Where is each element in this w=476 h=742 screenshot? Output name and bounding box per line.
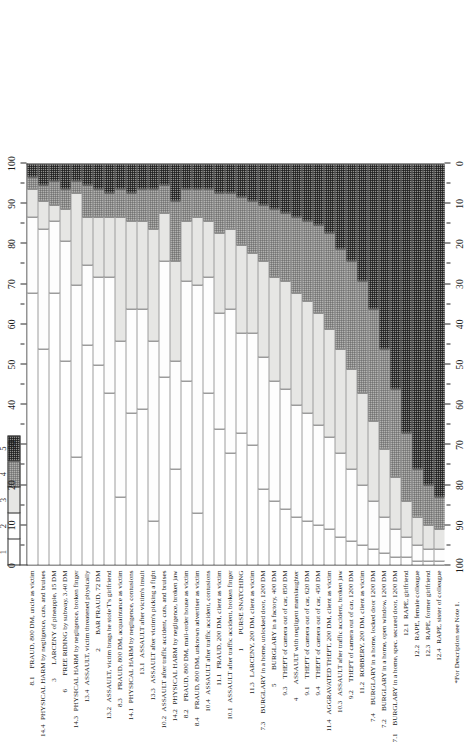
- bar-segment-3: [192, 216, 202, 284]
- table-row: [115, 164, 126, 564]
- bar-segment-2: [181, 280, 191, 380]
- axis-tick-label: 90: [454, 520, 464, 530]
- category-label: 13.1ASSAULT after victim's insult: [136, 567, 147, 683]
- bar-segment-4: [335, 248, 345, 348]
- category-text: BURGLARY in a home, unlocked door, 1200 …: [259, 570, 266, 713]
- category-label: 12.3RAPE, former girlfriend: [422, 567, 433, 683]
- axis-tick: [20, 564, 26, 565]
- category-label-list: 8.1FRAUD, 800 DM, uncle as victim14.4PHY…: [26, 567, 444, 683]
- bar-segment-5: [115, 164, 125, 188]
- category-code: 7.3: [259, 713, 266, 730]
- table-row: [258, 164, 269, 564]
- bar-segment-5: [247, 164, 257, 200]
- axis-tick-label: 10: [454, 198, 464, 208]
- axis-tick: [20, 303, 24, 304]
- bar-segment-5: [346, 164, 356, 260]
- axis-tick: [20, 202, 26, 203]
- bar-segment-5: [423, 164, 433, 484]
- legend-swatch-1: 1: [7, 539, 20, 565]
- bar-segment-4: [71, 180, 81, 192]
- table-row: [291, 164, 302, 564]
- bar-segment-4: [192, 188, 202, 216]
- category-text: RAPE, female colleague: [413, 570, 420, 640]
- bar-segment-5: [379, 164, 389, 348]
- bar-segment-5: [269, 164, 279, 208]
- bar-segment-1: [214, 428, 224, 564]
- category-label: 9.1THEFT of camera out of car, 620 DM: [301, 567, 312, 683]
- bar-segment-1: [148, 520, 158, 564]
- bar-segment-1: [379, 552, 389, 564]
- table-row: [126, 164, 137, 564]
- axis-tick: [20, 363, 26, 364]
- axis-tick: [446, 182, 450, 183]
- table-row: [302, 164, 313, 564]
- bar-segment-5: [225, 164, 235, 192]
- axis-tick: [444, 242, 450, 243]
- category-text: PHYSICAL HARM by negligence, contusions: [127, 570, 134, 703]
- axis-tick: [20, 283, 26, 284]
- axis-tick-label: 90: [6, 198, 16, 208]
- axis-tick: [444, 363, 450, 364]
- category-code: 10.3: [336, 696, 343, 713]
- bar-segment-5: [434, 164, 444, 496]
- table-row: [181, 164, 192, 564]
- category-label: 14.1PHYSICAL HARM by negligence, contusi…: [125, 567, 136, 683]
- bar-segment-4: [269, 208, 279, 276]
- bar-segment-3: [126, 220, 136, 308]
- bar-segment-3: [379, 448, 389, 516]
- bar-segment-5: [291, 164, 301, 216]
- axis-tick-label: 40: [454, 319, 464, 329]
- table-row: [203, 164, 214, 564]
- table-row: [148, 164, 159, 564]
- category-label: 13.2ASSAULT, victim brags he stole T's g…: [103, 567, 114, 683]
- axis-tick-label: 70: [6, 279, 16, 289]
- bar-segment-2: [82, 264, 92, 344]
- category-code: 13.2: [105, 702, 112, 719]
- category-label: 13.3ASSAULT after victim's picking a fig…: [147, 567, 158, 683]
- bar-segment-1: [93, 364, 103, 564]
- category-code: 9.2: [347, 681, 354, 698]
- bar-segment-2: [335, 452, 345, 536]
- category-label: 12.1RAPE, girlfriend: [400, 567, 411, 683]
- category-code: 8.2: [182, 701, 189, 718]
- axis-tick: [444, 202, 450, 203]
- bar-segment-2: [302, 412, 312, 520]
- axis-tick-label: 10: [6, 520, 16, 530]
- bar-segment-3: [423, 524, 433, 548]
- bar-segment-3: [247, 252, 257, 332]
- bar-segment-5: [93, 164, 103, 188]
- bar-segment-2: [434, 548, 444, 560]
- bar-segment-5: [214, 164, 224, 192]
- category-code: 13.1: [138, 657, 145, 674]
- axis-tick: [444, 524, 450, 525]
- bar-segment-4: [181, 188, 191, 220]
- bar-segment-2: [38, 228, 48, 348]
- bar-segment-1: [302, 520, 312, 564]
- bar-segment-2: [247, 332, 257, 444]
- bar-segment-2: [93, 276, 103, 364]
- category-code: 5: [270, 669, 277, 686]
- axis-tick: [20, 162, 26, 163]
- bar-segment-2: [27, 216, 37, 292]
- bar-segment-1: [115, 496, 125, 564]
- bar-segment-1: [181, 380, 191, 564]
- axis-tick: [444, 283, 450, 284]
- bar-segment-2: [368, 500, 378, 548]
- bar-segment-1: [401, 556, 411, 564]
- bar-segment-3: [71, 192, 81, 284]
- bar-segment-5: [27, 164, 37, 176]
- category-text: ASSAULT after traffic accident, broken j…: [336, 570, 343, 696]
- bar-segment-2: [324, 436, 334, 528]
- table-row: [280, 164, 291, 564]
- category-label: 7.4BURGLARY in a home, locked door 1200 …: [367, 567, 378, 683]
- category-text: FRAUD, 200 DM, client as victim: [215, 570, 222, 668]
- bar-segment-4: [93, 188, 103, 216]
- axis-tick: [444, 484, 450, 485]
- bar-segment-2: [236, 332, 246, 432]
- axis-tick: [20, 443, 26, 444]
- bar-segment-2: [258, 356, 268, 488]
- category-label: 11.1FRAUD, 200 DM, client as victim: [213, 567, 224, 683]
- category-code: 6: [61, 675, 68, 692]
- bar-segment-5: [335, 164, 345, 248]
- category-label: 8.1FRAUD, 800 DM, uncle as victim: [26, 567, 37, 683]
